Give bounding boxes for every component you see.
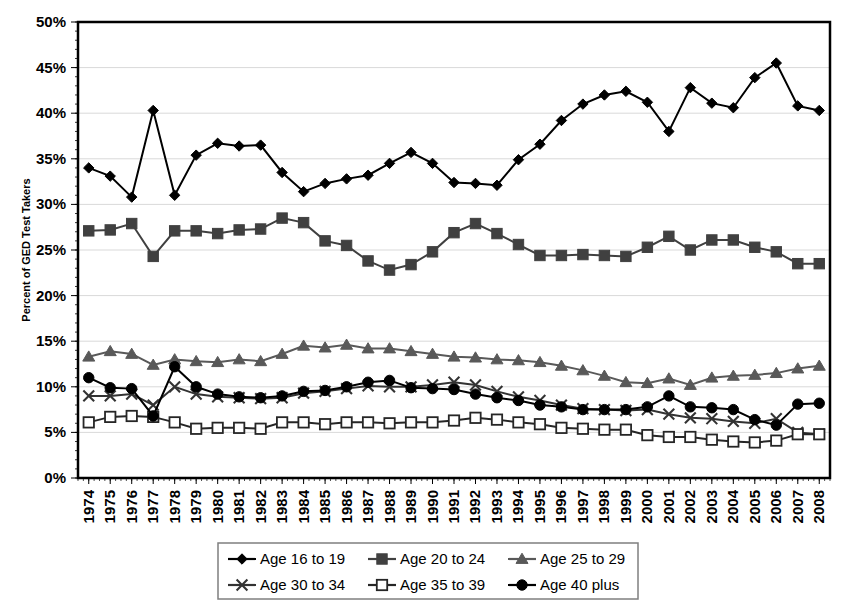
marker-circle [793,399,803,409]
x-axis-tick-label: 2005 [746,490,763,523]
y-axis-tick-label: 35% [36,150,66,167]
x-axis-tick-label: 1980 [209,490,226,523]
x-axis-tick-label: 1975 [101,490,118,523]
marker-square [212,228,222,238]
marker-open-square [685,432,695,442]
marker-circle [728,404,738,414]
marker-open-square [492,414,502,424]
marker-circle [771,420,781,430]
x-axis-tick-label: 1981 [230,490,247,523]
marker-open-square [127,411,137,421]
x-axis-tick-label: 2001 [660,490,677,523]
marker-open-square [320,419,330,429]
marker-circle [384,375,394,385]
marker-square [470,218,480,228]
x-axis-tick-label: 2002 [681,490,698,523]
legend-item-label: Age 40 plus [540,576,619,593]
y-axis-tick-label: 10% [36,378,66,395]
marker-square [127,218,137,228]
marker-open-square [513,417,523,427]
x-axis-tick-label: 1992 [466,490,483,523]
marker-open-square [377,580,387,590]
marker-open-square [449,415,459,425]
marker-open-square [814,429,824,439]
marker-open-square [556,423,566,433]
x-axis-tick-label: 2006 [767,490,784,523]
legend-item-label: Age 25 to 29 [540,550,625,567]
marker-circle [127,383,137,393]
marker-open-square [599,424,609,434]
marker-square [320,236,330,246]
marker-square [406,259,416,269]
marker-square [642,242,652,252]
legend-item-label: Age 16 to 19 [260,550,345,567]
marker-open-square [277,417,287,427]
marker-circle [169,362,179,372]
y-axis-tick-label: 5% [44,423,66,440]
marker-square [377,554,387,564]
x-axis-tick-label: 1979 [187,490,204,523]
marker-square [384,265,394,275]
marker-square [621,251,631,261]
marker-circle [449,384,459,394]
marker-open-square [191,424,201,434]
marker-circle [341,382,351,392]
marker-open-square [255,424,265,434]
x-axis-tick-label: 1998 [595,490,612,523]
marker-square [513,239,523,249]
marker-square [728,235,738,245]
x-axis-tick-label: 1989 [402,490,419,523]
marker-square [793,258,803,268]
marker-circle [664,391,674,401]
marker-square [599,250,609,260]
y-axis-tick-label: 15% [36,332,66,349]
y-axis-tick-label: 20% [36,287,66,304]
marker-square [814,258,824,268]
marker-open-square [621,424,631,434]
marker-circle [578,404,588,414]
marker-circle [556,402,566,412]
marker-square [363,256,373,266]
marker-open-square [212,423,222,433]
x-axis-tick-label: 2003 [703,490,720,523]
marker-circle [707,403,717,413]
marker-square [685,245,695,255]
marker-open-square [664,432,674,442]
x-axis-tick-label: 2004 [724,489,741,523]
y-axis-tick-label: 40% [36,104,66,121]
x-axis-tick-label: 1985 [316,490,333,523]
x-axis-tick-label: 1984 [295,489,312,523]
marker-open-square [578,424,588,434]
x-axis-tick-label: 1974 [80,489,97,523]
x-axis-tick-label: 1994 [509,489,526,523]
y-axis-tick-label: 30% [36,195,66,212]
marker-square [255,224,265,234]
marker-open-square [427,417,437,427]
marker-square [148,251,158,261]
marker-square [427,247,437,257]
x-axis-tick-label: 1990 [424,490,441,523]
marker-circle [814,398,824,408]
x-axis-tick-label: 1991 [445,490,462,523]
x-axis-tick-label: 2008 [810,490,827,523]
x-axis-tick-label: 1999 [617,490,634,523]
marker-open-square [406,417,416,427]
legend-item-label: Age 20 to 24 [400,550,485,567]
marker-circle [470,389,480,399]
marker-square [298,217,308,227]
x-axis-tick-label: 1976 [123,490,140,523]
marker-circle [298,386,308,396]
marker-open-square [341,417,351,427]
marker-open-square [793,429,803,439]
marker-open-square [707,434,717,444]
marker-circle [277,391,287,401]
marker-square [277,213,287,223]
marker-open-square [470,413,480,423]
y-axis-title-text: Percent of GED Test Takers [20,178,32,321]
marker-square [449,227,459,237]
y-axis-tick-label: 45% [36,59,66,76]
marker-circle [492,393,502,403]
y-axis-tick-label: 25% [36,241,66,258]
marker-open-square [169,417,179,427]
x-axis-tick-label: 1988 [381,490,398,523]
